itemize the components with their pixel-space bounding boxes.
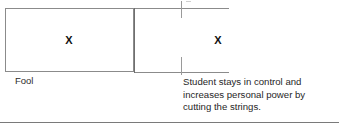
table-column-divider <box>134 8 135 73</box>
table-tick-bottom <box>181 57 182 75</box>
scanned-page: X X Fool Student stays in control and in… <box>0 0 339 128</box>
caption-left: Fool <box>15 75 33 87</box>
caption-right-line-2: increases personal power by <box>183 89 335 102</box>
caption-right-line-3: cutting the strings. <box>183 101 335 114</box>
caption-right: Student stays in control and increases p… <box>183 76 335 114</box>
cell-mark-left: X <box>61 35 77 46</box>
table-tick-top <box>181 1 182 18</box>
scan-artifact-speck <box>186 1 191 2</box>
caption-right-line-1: Student stays in control and <box>183 76 335 89</box>
footer-separator-rule <box>0 122 339 123</box>
cell-mark-right: X <box>210 35 226 46</box>
